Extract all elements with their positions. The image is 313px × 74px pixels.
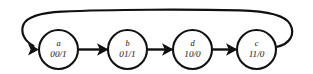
- node-b-code-label: 01/1: [119, 49, 135, 59]
- node-b-state-label: b: [125, 39, 129, 48]
- node-a-code-label: 00/1: [50, 49, 66, 59]
- node-c-state-label: c: [255, 39, 259, 48]
- node-d-code-label: 10/0: [184, 49, 201, 59]
- state-diagram-canvas: a 00/1 b 01/1 d 10/0 c 11/0: [0, 0, 313, 74]
- state-diagram-figure: a 00/1 b 01/1 d 10/0 c 11/0: [0, 0, 313, 74]
- node-c-code-label: 11/0: [249, 49, 265, 59]
- node-a-state-label: a: [56, 39, 60, 48]
